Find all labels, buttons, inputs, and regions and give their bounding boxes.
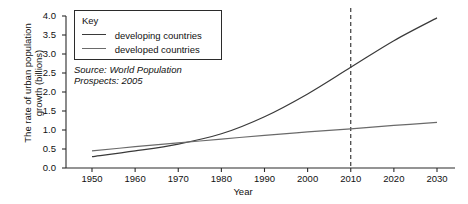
legend-title: Key bbox=[82, 15, 98, 26]
x-tick-label: 2020 bbox=[374, 173, 414, 184]
y-tick-label: 4.0 bbox=[30, 10, 56, 21]
legend-item-developing-countries: developing countries bbox=[82, 29, 202, 41]
x-tick-label: 1960 bbox=[115, 173, 155, 184]
y-tick-label: 2.5 bbox=[30, 67, 56, 78]
legend-swatch-developing-icon bbox=[82, 34, 106, 35]
x-tick-label: 1980 bbox=[201, 173, 241, 184]
series-line-developed-countries bbox=[92, 122, 437, 150]
x-tick-label: 2000 bbox=[288, 173, 328, 184]
y-tick-label: 3.0 bbox=[30, 48, 56, 59]
source-note-line2: Prospects: 2005 bbox=[74, 75, 143, 86]
legend-label-developing-countries: developing countries bbox=[115, 30, 202, 41]
x-tick-label: 1970 bbox=[158, 173, 198, 184]
y-axis-ticks bbox=[62, 16, 66, 168]
source-note-line1: Source: World Population bbox=[74, 64, 182, 75]
x-axis-ticks bbox=[92, 168, 437, 172]
x-tick-label: 2030 bbox=[417, 173, 457, 184]
x-axis-label: Year bbox=[218, 186, 268, 197]
y-tick-label: 1.0 bbox=[30, 124, 56, 135]
y-tick-label: 2.0 bbox=[30, 86, 56, 97]
legend-item-developed-countries: developed countries bbox=[82, 43, 200, 55]
source-note: Source: World Population Prospects: 2005 bbox=[74, 64, 244, 86]
legend-swatch-developed-icon bbox=[82, 48, 106, 49]
y-tick-label: 0.0 bbox=[30, 162, 56, 173]
x-tick-label: 1950 bbox=[72, 173, 112, 184]
legend-label-developed-countries: developed countries bbox=[115, 44, 200, 55]
legend-box: Key developing countries developed count… bbox=[74, 10, 222, 60]
y-tick-label: 3.5 bbox=[30, 29, 56, 40]
x-tick-label: 2010 bbox=[331, 173, 371, 184]
chart-figure: The rate of urban population growth (bil… bbox=[0, 0, 468, 204]
y-tick-label: 0.5 bbox=[30, 143, 56, 154]
y-tick-label: 1.5 bbox=[30, 105, 56, 116]
x-tick-label: 1990 bbox=[245, 173, 285, 184]
